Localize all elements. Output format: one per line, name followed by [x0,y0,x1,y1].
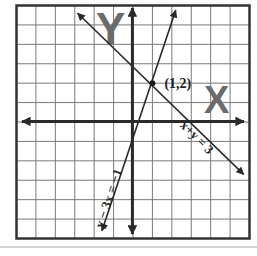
equation-label-x-plus-y: x+y = 3 [177,117,217,157]
x-axis-label: X [204,79,230,121]
bottom-divider [0,246,257,248]
intersection-label: (1,2) [164,76,191,92]
intersection-point [149,80,155,86]
coordinate-graph: Y X (1,2) x+y = 3 y − 3x = −1 [0,0,257,256]
equation-label-y-minus-3x: y − 3x = −1 [92,167,126,230]
